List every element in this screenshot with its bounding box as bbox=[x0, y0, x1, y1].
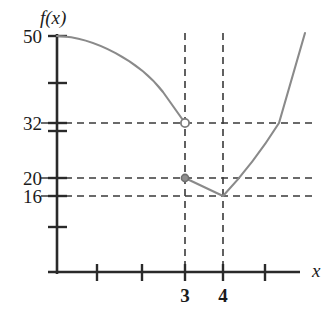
reference-lines bbox=[41, 33, 313, 272]
open-point-3-32 bbox=[181, 119, 189, 127]
point-markers bbox=[181, 119, 189, 182]
series-rising-branch bbox=[223, 33, 305, 196]
y-tick-label-50: 50 bbox=[4, 27, 42, 46]
x-tick-label-3: 3 bbox=[171, 286, 199, 305]
data-series bbox=[57, 33, 305, 196]
chart-canvas bbox=[0, 0, 332, 324]
y-axis-title: f(x) bbox=[40, 8, 66, 27]
x-tick-label-4: 4 bbox=[209, 286, 237, 305]
filled-point-3-20 bbox=[181, 174, 188, 181]
y-tick-label-32: 32 bbox=[4, 114, 42, 133]
axes bbox=[48, 34, 300, 274]
series-upper-branch bbox=[57, 36, 185, 123]
series-lower-segment bbox=[185, 178, 223, 196]
y-tick-label-16: 16 bbox=[4, 187, 42, 206]
x-axis-title: x bbox=[312, 261, 320, 280]
chart-figure: f(x) x 50 32 20 16 3 4 bbox=[0, 0, 332, 324]
